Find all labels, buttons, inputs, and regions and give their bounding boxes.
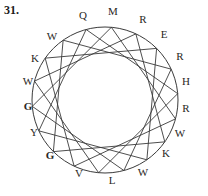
star-polygon-figure: QMRERHRWKWLVGYGWKW (0, 0, 208, 196)
vertex-label-10: L (109, 174, 116, 186)
figure-page: 31. QMRERHRWKWLVGYGWKW (0, 0, 208, 196)
vertex-label-0: Q (79, 9, 87, 21)
vertex-label-15: W (23, 75, 34, 87)
vertex-label-9: W (138, 166, 149, 178)
vertex-label-4: R (176, 50, 184, 62)
vertex-label-8: K (162, 147, 170, 159)
vertex-label-16: K (31, 52, 39, 64)
vertex-label-3: E (161, 28, 168, 40)
vertex-label-5: H (182, 75, 190, 87)
vertex-label-1: M (108, 5, 118, 17)
vertex-label-2: R (139, 13, 147, 25)
chord-line (63, 40, 171, 69)
vertex-label-12: G (46, 149, 55, 161)
vertex-label-13: Y (30, 126, 38, 138)
vertex-label-11: V (75, 167, 83, 179)
chord-line (32, 27, 111, 106)
vertex-label-7: W (175, 127, 186, 139)
vertex-label-17: W (47, 30, 58, 42)
vertex-label-6: R (182, 102, 190, 114)
vertex-label-14: G (24, 100, 33, 112)
figure-svg: QMRERHRWKWLVGYGWKW (0, 0, 208, 196)
